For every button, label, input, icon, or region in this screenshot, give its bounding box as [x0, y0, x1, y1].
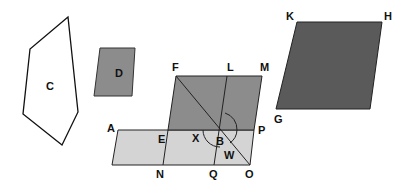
label-e: E: [158, 133, 165, 145]
label-q: Q: [209, 168, 218, 180]
label-o: O: [245, 168, 254, 180]
label-c: C: [46, 80, 54, 92]
label-w: W: [224, 149, 235, 161]
label-n: N: [156, 168, 164, 180]
label-g: G: [274, 113, 283, 125]
label-f: F: [172, 61, 179, 73]
label-l: L: [227, 61, 234, 73]
label-d: D: [115, 67, 123, 79]
shape-khg: [276, 22, 382, 109]
label-x: X: [192, 132, 200, 144]
label-p: P: [258, 124, 265, 136]
label-m: M: [260, 61, 269, 73]
geometry-diagram: C D K H G F L M A E X B P W N Q O: [0, 0, 410, 188]
label-b: B: [216, 135, 224, 147]
label-a: A: [107, 122, 115, 134]
label-k: K: [286, 10, 294, 22]
label-h: H: [384, 10, 392, 22]
